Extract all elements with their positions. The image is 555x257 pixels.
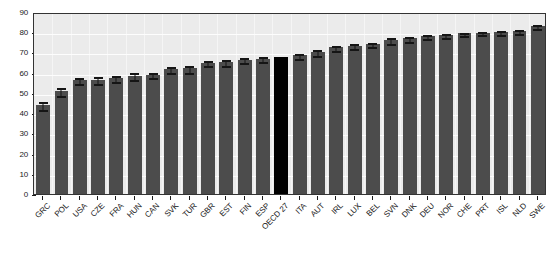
x-tick-mark xyxy=(500,196,501,200)
bar[interactable] xyxy=(531,26,545,194)
bar-group xyxy=(529,14,546,194)
bar[interactable] xyxy=(458,33,472,194)
bar[interactable] xyxy=(274,57,288,195)
error-bar xyxy=(317,50,318,57)
x-tick-label: ITA xyxy=(294,202,308,216)
error-bar-cap-top xyxy=(112,76,121,78)
x-tick-mark xyxy=(464,196,465,200)
error-bar xyxy=(501,31,502,37)
error-bar-cap-top xyxy=(57,88,66,90)
error-bar xyxy=(446,34,447,40)
bar[interactable] xyxy=(329,47,343,194)
x-tick-mark xyxy=(225,196,226,200)
bar[interactable] xyxy=(348,46,362,194)
bar[interactable] xyxy=(421,36,435,194)
x-tick-label: BEL xyxy=(365,202,381,218)
x-tick-label: NLD xyxy=(511,202,528,219)
error-bar xyxy=(519,30,520,36)
bar-group xyxy=(272,14,290,194)
x-tick-label: EST xyxy=(219,202,235,218)
x-tick-mark xyxy=(390,196,391,200)
bar[interactable] xyxy=(439,35,453,194)
error-bar-cap-bottom xyxy=(39,110,48,112)
bar[interactable] xyxy=(219,62,233,194)
bar-group xyxy=(34,14,52,194)
bar[interactable] xyxy=(238,60,252,194)
error-bar xyxy=(427,35,428,41)
bar[interactable] xyxy=(55,91,69,194)
error-bar xyxy=(244,58,245,65)
y-tick-label: 20 xyxy=(20,151,29,159)
bar[interactable] xyxy=(256,59,270,194)
bar-group xyxy=(455,14,473,194)
x-tick-mark xyxy=(280,196,281,200)
error-bar xyxy=(482,32,483,38)
error-bar xyxy=(226,60,227,68)
x-tick-mark xyxy=(409,196,410,200)
bar-group xyxy=(71,14,89,194)
error-bar-cap-bottom xyxy=(259,62,268,64)
bar-group xyxy=(419,14,437,194)
error-bar-cap-top xyxy=(478,32,487,34)
error-bar-cap-top xyxy=(387,38,396,40)
error-bar-cap-bottom xyxy=(240,63,249,65)
x-tick-mark xyxy=(207,196,208,200)
error-bar xyxy=(153,73,154,80)
bars-layer xyxy=(34,14,545,194)
error-bar-cap-top xyxy=(185,66,194,68)
error-bar-cap-bottom xyxy=(442,38,451,40)
bar-group xyxy=(345,14,363,194)
x-tick-mark xyxy=(79,196,80,200)
y-tick-label: 10 xyxy=(20,171,29,179)
bar[interactable] xyxy=(36,105,50,194)
bar[interactable] xyxy=(146,75,160,194)
bar[interactable] xyxy=(513,31,527,194)
x-tick-label: CZE xyxy=(90,202,107,219)
error-bar-cap-top xyxy=(533,25,542,27)
x-tick-label: LUX xyxy=(347,202,363,218)
plot-area xyxy=(33,13,546,195)
error-bar-cap-bottom xyxy=(515,34,524,36)
x-tick-mark xyxy=(482,196,483,200)
error-bar-cap-top xyxy=(460,33,469,35)
error-bar-cap-top xyxy=(130,73,139,75)
error-bar xyxy=(263,57,264,64)
error-bar-cap-bottom xyxy=(204,66,213,68)
x-tick-label: GBR xyxy=(199,202,217,220)
bar[interactable] xyxy=(164,69,178,194)
bar-chart: 0102030405060708090 GRCPOLUSACZEFRAHUNCA… xyxy=(0,0,555,257)
bar[interactable] xyxy=(476,33,490,194)
error-bar xyxy=(354,44,355,51)
bar[interactable] xyxy=(128,76,142,195)
bar[interactable] xyxy=(403,38,417,194)
error-bar-cap-bottom xyxy=(423,39,432,41)
x-tick-label: TUR xyxy=(181,202,198,219)
bar[interactable] xyxy=(183,68,197,194)
bar[interactable] xyxy=(73,80,87,194)
bar[interactable] xyxy=(91,80,105,194)
bar[interactable] xyxy=(201,63,215,194)
bar[interactable] xyxy=(494,32,508,194)
bar[interactable] xyxy=(384,40,398,194)
error-bar xyxy=(537,25,538,31)
error-bar-cap-bottom xyxy=(112,82,121,84)
error-bar-cap-bottom xyxy=(350,49,359,51)
bar[interactable] xyxy=(293,55,307,194)
bar[interactable] xyxy=(109,78,123,194)
error-bar-cap-top xyxy=(332,46,341,48)
error-bar-cap-top xyxy=(94,77,103,79)
y-tick-label: 60 xyxy=(20,70,29,78)
bar[interactable] xyxy=(311,52,325,194)
x-tick-mark xyxy=(427,196,428,200)
bar-group xyxy=(52,14,70,194)
bar-group xyxy=(309,14,327,194)
x-tick-label: ISL xyxy=(496,202,510,216)
x-tick-label: POL xyxy=(53,202,70,219)
error-bar-cap-top xyxy=(368,43,377,45)
error-bar-cap-top xyxy=(350,44,359,46)
bar-group xyxy=(474,14,492,194)
x-axis: GRCPOLUSACZEFRAHUNCANSVKTURGBRESTFINESPO… xyxy=(33,196,546,257)
bar[interactable] xyxy=(366,44,380,194)
error-bar-cap-bottom xyxy=(313,56,322,58)
x-tick-mark xyxy=(97,196,98,200)
